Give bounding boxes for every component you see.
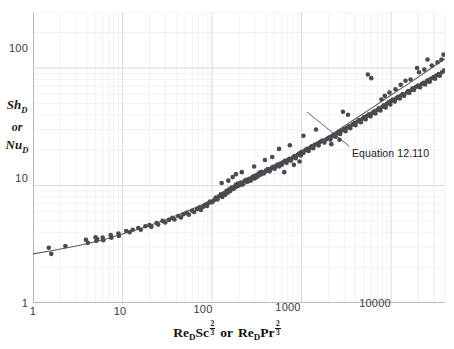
data-point [439, 57, 444, 62]
data-point [187, 212, 192, 217]
data-point [297, 159, 302, 164]
data-point [63, 244, 68, 249]
data-point [314, 127, 319, 132]
data-point [393, 87, 398, 92]
data-point [366, 72, 371, 77]
data-point [282, 170, 287, 175]
data-point [219, 181, 224, 186]
data-point [263, 158, 268, 163]
data-point [415, 66, 420, 71]
data-point [369, 76, 374, 81]
y-axis-title-line-or: or [2, 119, 32, 136]
data-point [240, 170, 245, 175]
data-point [403, 78, 408, 83]
data-point [149, 225, 154, 230]
data-point [408, 77, 413, 82]
data-point [425, 57, 430, 62]
chart-figure: 100 10 1 1 10 100 1000 10000 ShD or NuD … [0, 0, 454, 349]
y-axis-title-line-nu: NuD [2, 136, 32, 159]
data-point [435, 60, 440, 65]
x-axis-or: or [215, 325, 238, 340]
data-point [382, 94, 387, 99]
x-tick-label-1000: 1000 [270, 301, 306, 313]
data-point [422, 67, 427, 72]
data-point [117, 234, 122, 239]
data-point [49, 252, 54, 257]
data-point [130, 227, 135, 232]
data-point [441, 52, 445, 57]
data-point [288, 143, 293, 148]
data-point [46, 246, 51, 251]
data-point [346, 113, 351, 118]
y-tick-label-10: 10 [2, 172, 28, 184]
y-tick-label-100: 100 [2, 42, 28, 54]
data-point [270, 155, 275, 160]
data-point [109, 235, 114, 240]
data-point [292, 163, 297, 168]
y-axis-title: ShD or NuD [2, 96, 32, 158]
x-axis-title: ReDSc23orReDPr23 [0, 320, 454, 342]
y-axis-sh-text: Sh [7, 97, 21, 112]
data-point [95, 237, 100, 242]
data-point [234, 172, 239, 177]
data-point [341, 109, 346, 114]
data-point [277, 147, 282, 152]
data-point [226, 178, 231, 183]
y-axis-title-line-sh: ShD [2, 96, 32, 119]
x-axis-exp-den-2: 3 [275, 329, 281, 337]
x-axis-exponent-2: 23 [275, 320, 281, 336]
y-axis-nu-text: Nu [6, 137, 23, 152]
data-point [379, 97, 384, 102]
data-point [86, 241, 91, 246]
x-tick-label-10: 10 [107, 305, 133, 317]
y-axis-nu-subscript: D [22, 144, 28, 154]
x-tick-label-10000: 10000 [353, 297, 397, 309]
x-axis-re-1: Re [173, 325, 189, 340]
x-tick-label-1: 1 [23, 305, 43, 317]
data-point [143, 224, 148, 229]
data-point [252, 164, 257, 169]
data-point [417, 70, 422, 75]
x-axis-pr: Pr [260, 325, 274, 340]
y-axis-sh-subscript: D [21, 105, 27, 115]
x-axis-re-2: Re [238, 325, 254, 340]
x-tick-label-100: 100 [188, 303, 218, 315]
data-point [430, 63, 435, 68]
data-point [101, 238, 106, 243]
data-point [398, 83, 403, 88]
data-point [163, 220, 168, 225]
data-point [387, 90, 392, 95]
data-point [172, 217, 177, 222]
data-point [329, 142, 334, 147]
data-point [156, 222, 161, 227]
data-point [139, 227, 144, 232]
data-point [301, 134, 306, 139]
equation-annotation-label: Equation 12.110 [352, 147, 429, 159]
x-axis-sc: Sc [196, 325, 210, 340]
